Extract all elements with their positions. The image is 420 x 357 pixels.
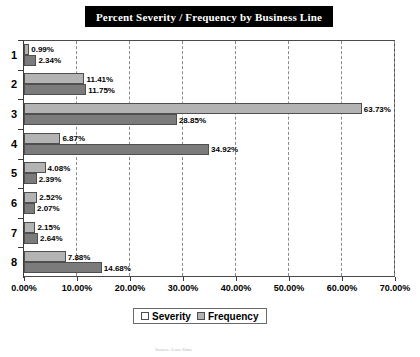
bar-group: 11.41%11.75%: [24, 73, 395, 95]
bar-group: 63.73%28.85%: [24, 103, 395, 125]
bar-value-label: 63.73%: [362, 104, 391, 113]
x-axis-label: 30.00%: [168, 283, 199, 293]
bar-row: 2.52%: [24, 192, 395, 203]
bar-value-label: 2.39%: [37, 174, 62, 183]
bar-row: 34.92%: [24, 144, 395, 155]
legend-label: Severity: [152, 311, 191, 322]
bar-group: 7.88%14.68%: [24, 251, 395, 273]
bar-group: 2.15%2.64%: [24, 222, 395, 244]
y-axis-tick: [18, 129, 23, 130]
x-axis-label: 60.00%: [327, 283, 358, 293]
legend-swatch-icon: [141, 312, 149, 320]
bar-severity-2: [24, 84, 86, 95]
x-axis-label: 20.00%: [115, 283, 146, 293]
bar-value-label: 6.87%: [60, 134, 85, 143]
x-axis-label: 50.00%: [274, 283, 305, 293]
bar-row: 63.73%: [24, 103, 395, 114]
bar-frequency-4: [24, 133, 60, 144]
x-axis-tick: [289, 277, 290, 281]
bar-frequency-3: [24, 103, 362, 114]
bar-severity-3: [24, 114, 177, 125]
x-axis-tick: [395, 277, 396, 281]
page-title: Percent Severity / Frequency by Business…: [96, 11, 322, 23]
bar-row: 2.07%: [24, 203, 395, 214]
bar-row: 11.75%: [24, 84, 395, 95]
x-axis-tick: [342, 277, 343, 281]
legend-label: Frequency: [208, 311, 259, 322]
bar-row: 2.15%: [24, 222, 395, 233]
bar-value-label: 2.64%: [38, 234, 63, 243]
bar-row: 2.34%: [24, 55, 395, 66]
bar-row: 0.99%: [24, 44, 395, 55]
bar-group: 2.52%2.07%: [24, 192, 395, 214]
x-axis-tick: [130, 277, 131, 281]
bar-row: 11.41%: [24, 73, 395, 84]
bar-row: 2.64%: [24, 233, 395, 244]
y-axis-tick: [18, 218, 23, 219]
bar-frequency-8: [24, 251, 66, 262]
x-axis-label: 70.00%: [380, 283, 411, 293]
bar-value-label: 2.15%: [35, 223, 60, 232]
y-axis-tick: [18, 188, 23, 189]
legend-item-frequency[interactable]: Frequency: [197, 311, 259, 322]
bar-value-label: 4.08%: [46, 163, 71, 172]
bar-severity-4: [24, 144, 209, 155]
bar-frequency-6: [24, 192, 37, 203]
bar-value-label: 34.92%: [209, 145, 238, 154]
y-axis-label-4: 4: [0, 138, 17, 150]
bars-layer: 0.99%2.34%11.41%11.75%63.73%28.85%6.87%3…: [24, 40, 395, 277]
bar-frequency-5: [24, 162, 46, 173]
y-axis-tick: [18, 247, 23, 248]
bar-group: 0.99%2.34%: [24, 44, 395, 66]
bar-value-label: 2.07%: [35, 204, 60, 213]
legend-swatch-icon: [197, 312, 205, 320]
bar-severity-6: [24, 203, 35, 214]
bar-row: 14.68%: [24, 262, 395, 273]
bar-value-label: 14.68%: [102, 263, 131, 272]
bar-row: 4.08%: [24, 162, 395, 173]
y-axis-tick: [18, 40, 23, 41]
x-axis-label: 40.00%: [221, 283, 252, 293]
y-axis-label-5: 5: [0, 167, 17, 179]
y-axis-label-1: 1: [0, 49, 17, 61]
chart-legend: SeverityFrequency: [133, 308, 267, 324]
bar-value-label: 11.75%: [86, 85, 115, 94]
bar-severity-1: [24, 55, 36, 66]
bar-value-label: 11.41%: [84, 74, 113, 83]
x-axis-tick: [24, 277, 25, 281]
x-axis-label: 10.00%: [62, 283, 93, 293]
y-axis-label-8: 8: [0, 256, 17, 268]
y-axis-label-6: 6: [0, 197, 17, 209]
bar-value-label: 0.99%: [29, 45, 54, 54]
x-axis-tick: [183, 277, 184, 281]
bar-value-label: 28.85%: [177, 115, 206, 124]
bar-frequency-7: [24, 222, 35, 233]
bar-group: 4.08%2.39%: [24, 162, 395, 184]
y-axis-label-7: 7: [0, 227, 17, 239]
bar-severity-8: [24, 262, 102, 273]
bar-severity-5: [24, 173, 37, 184]
bar-value-label: 2.34%: [36, 56, 61, 65]
y-axis-tick: [18, 159, 23, 160]
bar-value-label: 7.88%: [66, 252, 91, 261]
bar-row: 7.88%: [24, 251, 395, 262]
y-axis-tick: [18, 99, 23, 100]
bar-value-label: 2.52%: [37, 193, 62, 202]
footer-note: Source: Loss Data: [155, 347, 192, 352]
y-axis-tick: [18, 70, 23, 71]
x-axis-label: 0.00%: [11, 283, 37, 293]
bar-row: 2.39%: [24, 173, 395, 184]
chart-title-banner: Percent Severity / Frequency by Business…: [85, 6, 333, 27]
bar-group: 6.87%34.92%: [24, 133, 395, 155]
bar-row: 6.87%: [24, 133, 395, 144]
y-axis-label-2: 2: [0, 78, 17, 90]
legend-item-severity[interactable]: Severity: [141, 311, 191, 322]
x-axis-tick: [77, 277, 78, 281]
bar-frequency-2: [24, 73, 84, 84]
bar-severity-7: [24, 233, 38, 244]
y-axis-label-3: 3: [0, 108, 17, 120]
bar-row: 28.85%: [24, 114, 395, 125]
x-axis-tick: [236, 277, 237, 281]
